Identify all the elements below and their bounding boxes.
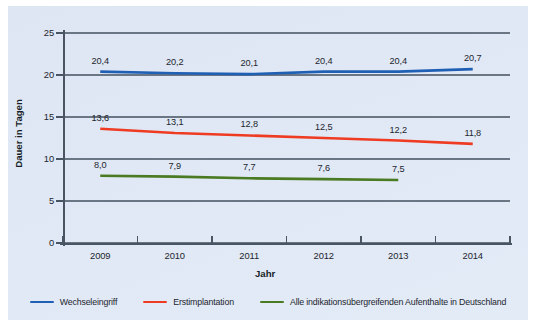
data-label-s1-2013: 12,2	[378, 125, 418, 135]
data-label-s1-2010: 13,1	[155, 117, 195, 127]
chart-legend: WechseleingriffErstimplantationAlle indi…	[0, 292, 536, 312]
data-label-s2-2011: 7,7	[229, 162, 269, 172]
legend-item-0[interactable]: Wechseleingriff	[30, 297, 118, 307]
y-tick-label-25: 25	[26, 27, 54, 38]
data-label-s1-2009: 13,6	[80, 113, 120, 123]
legend-swatch-icon-1	[143, 301, 167, 304]
x-tick-label-2014: 2014	[446, 250, 500, 261]
data-label-s1-2011: 12,8	[229, 119, 269, 129]
series-line-0	[100, 69, 473, 74]
plot-area	[63, 33, 510, 243]
y-tick-label-20: 20	[26, 69, 54, 80]
legend-item-1[interactable]: Erstimplantation	[143, 297, 234, 307]
legend-label-1: Erstimplantation	[173, 297, 234, 307]
legend-label-2: Alle indikationsübergreifenden Aufenthal…	[290, 297, 506, 307]
data-label-s1-2012: 12,5	[304, 122, 344, 132]
y-tick-label-10: 10	[26, 153, 54, 164]
data-label-s0-2012: 20,4	[304, 56, 344, 66]
x-tick-label-2009: 2009	[73, 250, 127, 261]
legend-item-2[interactable]: Alle indikationsübergreifenden Aufenthal…	[260, 297, 506, 307]
x-tick-label-2010: 2010	[148, 250, 202, 261]
series-line-2	[100, 176, 398, 180]
legend-label-0: Wechseleingriff	[60, 297, 118, 307]
data-label-s2-2012: 7,6	[304, 163, 344, 173]
x-tick-label-2011: 2011	[222, 250, 276, 261]
data-label-s0-2013: 20,4	[378, 56, 418, 66]
y-tick-label-5: 5	[26, 195, 54, 206]
data-label-s0-2010: 20,2	[155, 57, 195, 67]
y-tick-label-0: 0	[26, 237, 54, 248]
y-axis-title: Dauer in Tagen	[13, 79, 24, 189]
x-axis-title: Jahr	[255, 268, 275, 279]
series-lines	[63, 33, 510, 243]
data-label-s1-2014: 11,8	[453, 128, 493, 138]
data-label-s2-2010: 7,9	[155, 161, 195, 171]
data-label-s2-2009: 8,0	[80, 160, 120, 170]
legend-swatch-icon-2	[260, 301, 284, 304]
data-label-s2-2013: 7,5	[378, 164, 418, 174]
data-label-s0-2011: 20,1	[229, 58, 269, 68]
x-tick-label-2013: 2013	[371, 250, 425, 261]
data-label-s0-2014: 20,7	[453, 53, 493, 63]
y-tick-label-15: 15	[26, 111, 54, 122]
legend-swatch-icon-0	[30, 301, 54, 304]
data-label-s0-2009: 20,4	[80, 56, 120, 66]
x-tick-label-2012: 2012	[297, 250, 351, 261]
chart-figure: Dauer in Tagen 0510152025 20092010201120…	[0, 0, 536, 326]
